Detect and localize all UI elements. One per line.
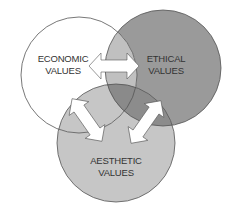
economic-label-line1: ECONOMIC [38,53,89,64]
economic-label-line2: VALUES [45,65,81,76]
aesthetic-label-line2: VALUES [98,167,134,178]
aesthetic-label-line1: AESTHETIC [90,155,142,166]
ethical-label-line2: VALUES [148,65,184,76]
venn-diagram: ECONOMIC VALUES ETHICAL VALUES AESTHETIC… [0,0,232,217]
ethical-label-line1: ETHICAL [147,53,186,64]
